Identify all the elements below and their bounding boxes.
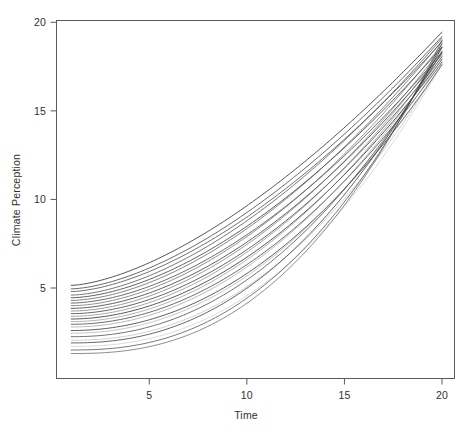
series-curves xyxy=(71,32,442,354)
series-line xyxy=(71,52,442,303)
x-axis-ticks xyxy=(149,379,442,385)
series-line xyxy=(71,54,442,308)
y-axis-ticks xyxy=(51,22,57,288)
series-line xyxy=(71,32,442,285)
series-line xyxy=(71,42,442,292)
y-tick-label: 10 xyxy=(20,193,46,205)
x-tick-label: 10 xyxy=(241,389,253,401)
y-tick-label: 15 xyxy=(20,105,46,117)
series-line xyxy=(71,57,442,314)
x-tick-label: 5 xyxy=(146,389,152,401)
chart-figure: 5101520 5101520 Time Climate Perception xyxy=(0,0,473,433)
series-line xyxy=(71,47,442,343)
y-tick-label: 20 xyxy=(20,16,46,28)
axis-frame xyxy=(51,21,455,385)
y-tick-label: 5 xyxy=(20,282,46,294)
series-line xyxy=(71,56,442,327)
series-line xyxy=(71,44,442,350)
x-tick-label: 20 xyxy=(436,389,448,401)
series-line xyxy=(71,38,442,295)
series-line xyxy=(71,41,442,301)
series-line xyxy=(71,36,442,288)
y-axis-title: Climate Perception xyxy=(10,154,22,246)
x-tick-label: 15 xyxy=(338,389,350,401)
x-axis-title: Time xyxy=(234,409,258,421)
plot-canvas xyxy=(0,0,473,433)
series-line xyxy=(71,62,442,324)
